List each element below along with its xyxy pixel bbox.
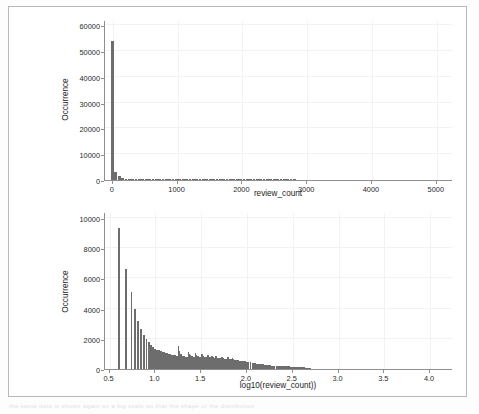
gridline-vertical (293, 213, 294, 369)
histogram-bar (226, 179, 229, 180)
y-tick-mark (101, 219, 104, 220)
gridline-vertical (110, 213, 111, 369)
x-tick-mark (200, 370, 201, 373)
histogram-bar (114, 172, 117, 180)
y-tick-mark (101, 155, 104, 156)
histogram-bar (178, 179, 181, 180)
gridline-vertical (430, 213, 431, 369)
y-tick-mark (101, 249, 104, 250)
gridline-vertical (155, 213, 156, 369)
gridline-horizontal (105, 153, 452, 154)
y-tick-mark (101, 310, 104, 311)
y-tick-label: 0 (58, 177, 100, 186)
histogram-bar (175, 179, 178, 180)
histogram-bar (137, 321, 139, 369)
histogram-bar (232, 179, 235, 180)
chart-review-count-linear: 0100002000030000400005000060000010002000… (9, 7, 466, 197)
y-axis-label-bottom: Occurrence (61, 262, 70, 322)
histogram-bar (239, 179, 242, 180)
plot-area-top (104, 21, 452, 181)
histogram-bar (236, 179, 239, 180)
y-tick-mark (101, 104, 104, 105)
histogram-bar (286, 179, 289, 180)
histogram-bar (128, 179, 131, 180)
histogram-bar (155, 179, 158, 180)
x-tick-label: 0 (110, 185, 114, 194)
histogram-bar (141, 179, 144, 180)
x-tick-mark (246, 370, 247, 373)
histogram-bar (273, 179, 276, 180)
gridline-vertical (437, 21, 438, 180)
x-tick-label: 1.0 (149, 374, 159, 383)
y-tick-label: 60000 (58, 22, 100, 31)
histogram-bar (229, 179, 232, 180)
histogram-bar (145, 179, 148, 180)
x-tick-mark (383, 370, 384, 373)
histogram-bar (290, 179, 293, 180)
histogram-bar (266, 179, 269, 180)
histogram-bar (253, 179, 256, 180)
x-tick-label: 4.0 (424, 374, 434, 383)
x-tick-mark (241, 181, 242, 184)
histogram-bar (249, 179, 252, 180)
histogram-bar (192, 179, 195, 180)
y-tick-label: 50000 (58, 47, 100, 56)
gridline-horizontal (105, 24, 452, 25)
histogram-bar (276, 179, 279, 180)
histogram-bar (134, 309, 136, 369)
x-tick-label: 3.5 (378, 374, 388, 383)
x-tick-mark (109, 370, 110, 373)
histogram-bar (111, 41, 114, 180)
x-tick-label: 3.0 (332, 374, 342, 383)
figure-frame: 0100002000030000400005000060000010002000… (8, 6, 467, 397)
gridline-vertical (307, 21, 308, 180)
x-tick-mark (154, 370, 155, 373)
y-tick-label: 8000 (58, 245, 100, 254)
histogram-bar (125, 179, 128, 180)
y-tick-mark (101, 340, 104, 341)
gridline-horizontal (105, 127, 452, 128)
histogram-bar (269, 179, 272, 180)
y-tick-label: 10000 (58, 215, 100, 224)
histogram-bar (263, 179, 266, 180)
histogram-bar (131, 179, 134, 180)
gridline-horizontal (105, 247, 452, 248)
histogram-bar (259, 179, 262, 180)
histogram-bar (280, 179, 283, 180)
histogram-bar (199, 179, 202, 180)
x-tick-mark (177, 181, 178, 184)
x-tick-label: 5000 (428, 185, 444, 194)
histogram-bar (212, 179, 215, 180)
y-tick-mark (101, 181, 104, 182)
histogram-bar (152, 179, 155, 180)
histogram-bar (135, 179, 138, 180)
histogram-bar (168, 179, 171, 180)
histogram-bar (138, 179, 141, 180)
page-canvas: 0100002000030000400005000060000010002000… (0, 0, 479, 414)
y-tick-mark (101, 52, 104, 53)
x-tick-mark (292, 370, 293, 373)
x-tick-label: 4000 (363, 185, 379, 194)
gridline-horizontal (105, 102, 452, 103)
histogram-bar (125, 269, 127, 369)
y-tick-mark (101, 26, 104, 27)
histogram-bar (172, 179, 175, 180)
x-tick-mark (371, 181, 372, 184)
histogram-bar (121, 178, 124, 180)
y-tick-mark (101, 129, 104, 130)
x-tick-label: 0.5 (103, 374, 113, 383)
x-tick-label: 2000 (233, 185, 249, 194)
histogram-bar (185, 179, 188, 180)
y-axis-label-top: Occurrence (61, 70, 70, 130)
histogram-bar (195, 179, 198, 180)
y-tick-mark (101, 279, 104, 280)
histogram-bar (216, 179, 219, 180)
x-tick-label: 1000 (168, 185, 184, 194)
x-tick-mark (429, 370, 430, 373)
histogram-bar (256, 179, 259, 180)
histogram-bar (189, 179, 192, 180)
histogram-bar (205, 179, 208, 180)
y-tick-mark (101, 370, 104, 371)
histogram-bar (148, 179, 151, 180)
histogram-bar (309, 368, 311, 369)
